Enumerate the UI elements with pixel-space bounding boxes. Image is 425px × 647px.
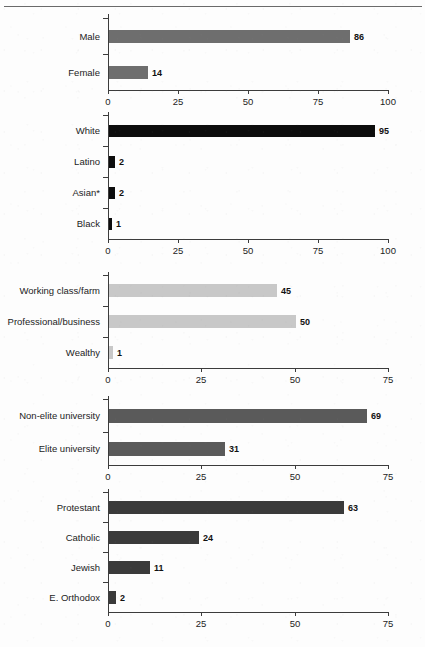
x-tick-label: 75 <box>368 375 408 385</box>
x-tick-label: 75 <box>298 97 338 107</box>
x-tick-mark <box>318 239 319 243</box>
x-tick-label: 75 <box>298 246 338 256</box>
x-tick-label: 0 <box>88 472 128 482</box>
x-tick-mark <box>108 368 109 372</box>
category-label: Black <box>77 219 100 229</box>
x-axis-line <box>108 612 388 613</box>
y-tick-mark <box>103 275 108 276</box>
y-tick-mark <box>103 522 108 523</box>
bar <box>109 284 277 297</box>
bar <box>109 591 116 604</box>
category-label: Asian* <box>73 188 100 198</box>
x-tick-label: 100 <box>368 97 408 107</box>
x-tick-label: 100 <box>368 246 408 256</box>
x-tick-label: 50 <box>228 97 268 107</box>
x-tick-mark <box>295 465 296 469</box>
category-label: Professional/business <box>8 317 100 327</box>
x-tick-mark <box>178 239 179 243</box>
y-tick-mark <box>103 18 108 19</box>
x-tick-label: 25 <box>158 97 198 107</box>
bar <box>109 125 375 137</box>
y-tick-mark <box>103 552 108 553</box>
x-tick-mark <box>248 239 249 243</box>
x-axis-line <box>108 368 388 369</box>
x-tick-label: 50 <box>275 375 315 385</box>
y-tick-mark <box>103 399 108 400</box>
x-tick-mark <box>108 239 109 243</box>
bar-value-label: 45 <box>281 287 291 296</box>
x-tick-mark <box>388 239 389 243</box>
bar-value-label: 50 <box>300 318 310 327</box>
x-tick-mark <box>201 612 202 616</box>
chart-panel-class-origin: Working class/farm45Professional/busines… <box>0 272 425 372</box>
bar <box>109 561 150 574</box>
category-label: Male <box>79 32 100 42</box>
bar <box>109 315 296 328</box>
bar <box>109 30 350 43</box>
bar-value-label: 2 <box>119 158 124 167</box>
x-tick-mark <box>201 368 202 372</box>
x-tick-mark <box>108 465 109 469</box>
y-tick-mark <box>103 337 108 338</box>
x-tick-label: 50 <box>228 246 268 256</box>
x-tick-mark <box>388 90 389 94</box>
x-tick-label: 25 <box>181 619 221 629</box>
bar-value-label: 95 <box>379 127 389 136</box>
x-tick-mark <box>388 612 389 616</box>
bar-value-label: 1 <box>117 349 122 358</box>
y-tick-mark <box>103 492 108 493</box>
x-tick-label: 25 <box>158 246 198 256</box>
category-label: Jewish <box>71 563 100 573</box>
x-tick-label: 50 <box>275 619 315 629</box>
x-tick-label: 0 <box>88 97 128 107</box>
category-label: Working class/farm <box>19 286 100 296</box>
x-tick-label: 75 <box>368 472 408 482</box>
y-tick-mark <box>103 177 108 178</box>
x-tick-label: 50 <box>275 472 315 482</box>
category-label: Protestant <box>57 503 100 513</box>
x-tick-label: 0 <box>88 246 128 256</box>
bar-value-label: 63 <box>348 504 358 513</box>
bar <box>109 187 115 199</box>
bar-value-label: 11 <box>154 564 164 573</box>
bar <box>109 531 199 544</box>
y-tick-mark <box>103 54 108 55</box>
category-label: Non-elite university <box>19 411 100 421</box>
bar <box>109 218 112 230</box>
bar <box>109 409 367 423</box>
y-tick-mark <box>103 115 108 116</box>
bar-value-label: 69 <box>371 412 381 421</box>
bar-value-label: 14 <box>152 69 162 78</box>
bar <box>109 501 344 514</box>
bar <box>109 442 225 456</box>
chart-panel-stack: Male86Female140255075100White95Latino2As… <box>0 0 425 647</box>
x-tick-label: 0 <box>88 619 128 629</box>
y-tick-mark <box>103 146 108 147</box>
x-tick-label: 0 <box>88 375 128 385</box>
chart-panel-race: White95Latino2Asian*2Black10255075100 <box>0 112 425 252</box>
y-tick-mark <box>103 208 108 209</box>
bar <box>109 66 148 79</box>
bar <box>109 346 113 359</box>
y-tick-mark <box>103 582 108 583</box>
x-tick-mark <box>178 90 179 94</box>
x-tick-mark <box>388 465 389 469</box>
bar-value-label: 24 <box>203 534 213 543</box>
x-tick-mark <box>318 90 319 94</box>
x-tick-mark <box>108 612 109 616</box>
chart-panel-gender: Male86Female140255075100 <box>0 14 425 106</box>
x-tick-mark <box>108 90 109 94</box>
x-axis-line <box>108 465 388 466</box>
category-label: Latino <box>74 157 100 167</box>
category-label: Female <box>68 68 100 78</box>
chart-panel-religion: Protestant63Catholic24Jewish11E. Orthodo… <box>0 489 425 621</box>
bar-value-label: 2 <box>119 189 124 198</box>
x-tick-label: 25 <box>181 375 221 385</box>
category-label: Elite university <box>39 444 100 454</box>
bar-value-label: 86 <box>354 33 364 42</box>
category-label: Wealthy <box>66 348 100 358</box>
x-tick-label: 25 <box>181 472 221 482</box>
x-tick-mark <box>295 612 296 616</box>
category-label: Catholic <box>66 533 100 543</box>
bar <box>109 156 115 168</box>
